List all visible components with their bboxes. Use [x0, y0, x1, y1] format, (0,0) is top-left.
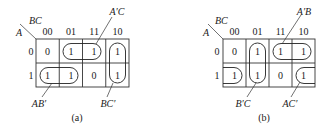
leader-line: [107, 83, 113, 97]
term-label: A′B: [296, 6, 311, 17]
corner-diagonal: [208, 24, 223, 39]
row-header: 0: [215, 46, 220, 57]
term-label: A′C: [109, 6, 125, 17]
col-header: 00: [230, 26, 240, 37]
cell-value: 0: [45, 46, 50, 57]
cell-value: 1: [255, 70, 260, 81]
col-var-label: BC: [29, 15, 42, 26]
col-header: 10: [112, 26, 122, 37]
col-header: 11: [276, 26, 286, 37]
kmap-a: BC A 00 01 11 10 0 1 0 1 1 1 1 1 0 1 A′: [15, 6, 129, 124]
term-label: BC′: [101, 98, 117, 109]
term-label: AC′: [282, 98, 299, 109]
cell-value: 1: [278, 46, 283, 57]
cell-value: 1: [301, 70, 306, 81]
cell-value: 0: [92, 70, 97, 81]
col-header: 01: [253, 26, 263, 37]
kmap-b: BC A 00 01 11 10 0 1 0 1 1 1 1 1 0 1 A′B…: [202, 6, 315, 124]
term-label: B′C: [236, 98, 251, 109]
row-header: 1: [215, 70, 220, 81]
leader-line: [247, 83, 256, 97]
col-header: 00: [43, 26, 53, 37]
cell-value: 1: [45, 70, 50, 81]
col-header: 01: [66, 26, 76, 37]
cell-value: 1: [92, 46, 97, 57]
kmap-figure: BC A 00 01 11 10 0 1 0 1 1 1 1 1 0 1 A′: [0, 0, 323, 126]
corner-diagonal: [20, 24, 36, 39]
term-label: AB′: [31, 98, 47, 109]
row-var-label: A: [202, 27, 210, 38]
col-var-label: BC: [215, 15, 228, 26]
caption: (a): [71, 112, 82, 124]
cell-value: 1: [232, 70, 237, 81]
col-header: 10: [299, 26, 309, 37]
cell-value: 1: [255, 46, 260, 57]
cell-value: 1: [115, 70, 120, 81]
cell-value: 1: [68, 46, 73, 57]
cell-value: 0: [278, 70, 283, 81]
cell-value: 1: [115, 46, 120, 57]
col-header: 11: [89, 26, 99, 37]
row-var-label: A: [15, 27, 23, 38]
cell-value: 0: [232, 46, 237, 57]
caption: (b): [258, 112, 270, 124]
cell-value: 1: [301, 46, 306, 57]
row-header: 1: [29, 70, 34, 81]
cell-value: 1: [68, 70, 73, 81]
row-header: 0: [29, 46, 34, 57]
leader-line: [42, 83, 52, 97]
